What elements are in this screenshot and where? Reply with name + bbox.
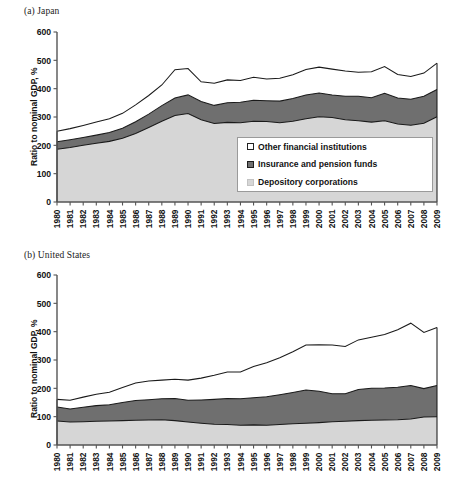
legend-item-depository-corporations[interactable]: Depository corporations [238,173,432,191]
x-tick-label: 1984 [105,209,115,228]
x-tick-label: 1981 [65,452,75,471]
x-tick-label: 1992 [209,452,219,471]
legend-swatch-insurance-icon [247,161,254,168]
legend-label-other: Other financial institutions [258,142,367,152]
x-tick-label: 2009 [432,209,442,228]
x-tick-label: 1989 [170,452,180,471]
x-tick-label: 2000 [314,209,324,228]
x-tick-label: 1990 [183,209,193,228]
x-tick-label: 1981 [65,209,75,228]
legend-japan: Other financial institutions Insurance a… [237,137,433,192]
x-tick-label: 1980 [52,452,62,471]
x-tick-label: 2005 [380,452,390,471]
x-tick-label: 2004 [367,452,377,471]
x-tick-label: 1992 [209,209,219,228]
x-tick-label: 1997 [275,209,285,228]
x-tick-label: 1983 [91,209,101,228]
x-tick-label: 1994 [236,209,246,228]
x-tick-label: 1993 [222,452,232,471]
legend-label-insurance: Insurance and pension funds [258,159,377,169]
x-tick-label: 1986 [131,209,141,228]
x-tick-label: 1983 [91,452,101,471]
x-tick-label: 1993 [222,209,232,228]
x-tick-label: 1984 [105,452,115,471]
x-tick-label: 1999 [301,209,311,228]
legend-item-insurance-pension-funds[interactable]: Insurance and pension funds [238,156,432,174]
legend-swatch-depository-icon [247,179,254,186]
x-tick-label: 1985 [118,452,128,471]
x-tick-label: 2008 [419,452,429,471]
x-tick-label: 2002 [340,209,350,228]
x-tick-label: 1995 [249,209,259,228]
y-tick-label: 200 [37,141,52,151]
y-tick-label: 300 [37,355,52,365]
x-tick-label: 1988 [157,452,167,471]
y-tick-label: 300 [37,112,52,122]
x-tick-label: 2003 [353,452,363,471]
x-tick-label: 1980 [52,209,62,228]
y-tick-label: 100 [37,412,52,422]
x-tick-label: 1987 [144,452,154,471]
x-tick-label: 1982 [78,209,88,228]
x-tick-label: 1998 [288,209,298,228]
x-tick-label: 2007 [406,209,416,228]
y-tick-label: 500 [37,299,52,309]
y-tick-label: 400 [37,84,52,94]
x-tick-label: 1998 [288,452,298,471]
x-tick-label: 2002 [340,452,350,471]
x-tick-label: 2004 [367,209,377,228]
x-tick-label: 1987 [144,209,154,228]
x-tick-label: 2009 [432,452,442,471]
x-tick-label: 1986 [131,452,141,471]
y-tick-label: 0 [46,440,51,450]
legend-swatch-other-icon [247,143,254,150]
chart-panel-united-states: (b) United States Ratio to nominal GDP, … [0,248,454,496]
y-tick-label: 400 [37,327,52,337]
x-tick-label: 1982 [78,452,88,471]
x-tick-label: 1994 [236,452,246,471]
x-tick-label: 2005 [380,209,390,228]
x-tick-label: 2007 [406,452,416,471]
x-tick-label: 1996 [262,209,272,228]
y-tick-label: 200 [37,384,52,394]
legend-label-depository: Depository corporations [258,177,358,187]
x-tick-label: 1991 [196,452,206,471]
x-tick-label: 1997 [275,452,285,471]
y-tick-label: 100 [37,169,52,179]
x-tick-label: 1985 [118,209,128,228]
y-tick-label: 500 [37,56,52,66]
x-tick-label: 1995 [249,452,259,471]
plot-area-united-states: 0100200300400500600198019811982198319841… [0,248,454,496]
x-tick-label: 1990 [183,452,193,471]
y-tick-label: 600 [37,27,52,37]
plot-area-japan: 0100200300400500600198019811982198319841… [0,0,454,248]
x-tick-label: 1989 [170,209,180,228]
x-tick-label: 1991 [196,209,206,228]
x-tick-label: 2003 [353,209,363,228]
x-tick-label: 2006 [393,452,403,471]
legend-item-other-financial-institutions[interactable]: Other financial institutions [238,138,432,156]
x-tick-label: 2008 [419,209,429,228]
x-tick-label: 1999 [301,452,311,471]
x-tick-label: 2001 [327,209,337,228]
x-tick-label: 2000 [314,452,324,471]
x-tick-label: 1996 [262,452,272,471]
x-tick-label: 2001 [327,452,337,471]
chart-panel-japan: (a) Japan Ratio to nominal GDP, % 010020… [0,0,454,248]
y-tick-label: 600 [37,270,52,280]
x-tick-label: 2006 [393,209,403,228]
x-tick-label: 1988 [157,209,167,228]
y-tick-label: 0 [46,197,51,207]
